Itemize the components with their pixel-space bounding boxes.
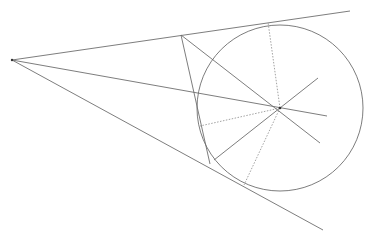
solid-lines — [12, 11, 350, 230]
lower-tangent-line — [12, 60, 323, 230]
geometry-diagram — [0, 0, 373, 232]
radius-to-lower-tangent — [244, 108, 280, 185]
apex-point — [11, 59, 13, 61]
radius-to-upper-tangent — [268, 22, 280, 108]
center-point — [279, 107, 282, 110]
dotted-lines — [200, 22, 280, 185]
